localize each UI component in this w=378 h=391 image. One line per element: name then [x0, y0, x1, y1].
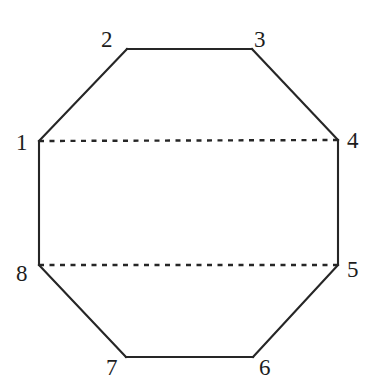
vertex-label-7: 7: [106, 356, 118, 379]
octagon-edge-5-6: [253, 265, 338, 357]
octagon-edge-1-2: [39, 49, 127, 141]
vertex-label-5: 5: [347, 258, 359, 281]
octagon-chord-1-4: [39, 140, 338, 141]
octagon-edge-7-8: [39, 265, 126, 357]
vertex-label-1: 1: [16, 131, 28, 154]
octagon-edge-3-4: [252, 49, 338, 140]
vertex-label-2: 2: [101, 28, 113, 51]
octagon-dashed-chords: [39, 140, 338, 265]
octagon-figure: 12345678: [0, 0, 378, 391]
vertex-label-6: 6: [259, 356, 271, 379]
octagon-solid-edges: [39, 49, 338, 357]
vertex-label-8: 8: [16, 262, 28, 285]
octagon-diagram-svg: [0, 0, 378, 391]
vertex-label-4: 4: [347, 129, 359, 152]
vertex-label-3: 3: [254, 28, 266, 51]
